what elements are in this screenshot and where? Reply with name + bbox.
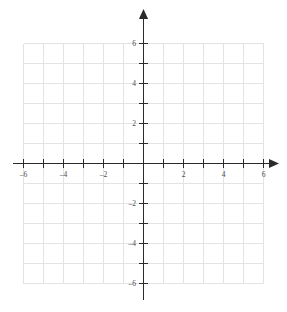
top-faint-artifact-text xyxy=(0,0,287,14)
x-axis-tick-label: –6 xyxy=(19,170,28,179)
coordinate-plane-figure: –6–4–2246642–2–4–6 xyxy=(0,0,287,312)
axes-layer xyxy=(13,9,279,300)
x-axis-tick-label: 4 xyxy=(222,170,226,179)
y-axis-tick-label: 2 xyxy=(132,119,136,128)
x-axis-tick-label: 2 xyxy=(182,170,186,179)
x-axis-tick-label: –4 xyxy=(59,170,68,179)
y-axis-tick-label: –6 xyxy=(128,279,137,288)
y-axis-tick-label: –4 xyxy=(128,239,137,248)
y-axis-tick-label: 4 xyxy=(132,79,136,88)
x-axis-tick-label: –2 xyxy=(99,170,108,179)
x-axis-arrowhead-icon xyxy=(269,159,279,168)
y-axis-tick-label: 6 xyxy=(132,39,136,48)
x-axis-tick-label: 6 xyxy=(262,170,266,179)
coordinate-plane-canvas: –6–4–2246642–2–4–6 xyxy=(0,0,287,312)
y-axis-tick-label: –2 xyxy=(128,199,137,208)
